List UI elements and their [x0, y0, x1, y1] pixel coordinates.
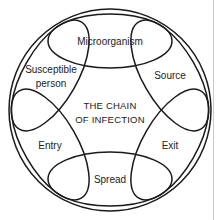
label-entry: Entry — [38, 140, 61, 151]
chain-of-infection-diagram: Microorganism Source Exit Spread Entry S… — [0, 0, 220, 220]
center-caption: THE CHAIN OF INFECTION — [75, 100, 144, 125]
label-microorganism: Microorganism — [77, 36, 143, 47]
label-susceptible-person-line1: Susceptible — [25, 64, 77, 75]
label-susceptible-person: Susceptible person — [25, 64, 77, 89]
center-caption-line1: THE CHAIN — [84, 100, 137, 111]
center-caption-line2: OF INFECTION — [75, 114, 144, 125]
label-exit: Exit — [162, 140, 179, 151]
diagram-canvas: Microorganism Source Exit Spread Entry S… — [0, 0, 220, 220]
label-spread: Spread — [94, 174, 126, 185]
label-susceptible-person-line2: person — [36, 78, 67, 89]
label-source: Source — [154, 70, 186, 81]
